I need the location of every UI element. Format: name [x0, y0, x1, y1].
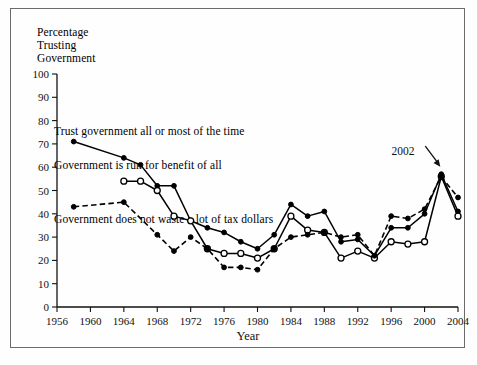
- annotation-group: 2002: [392, 145, 441, 167]
- data-point: [422, 211, 427, 216]
- data-point: [455, 213, 461, 219]
- data-point: [205, 225, 210, 230]
- data-point: [339, 235, 344, 240]
- series-line-2: [74, 177, 458, 270]
- x-tick-label-1972: 1972: [180, 315, 202, 327]
- x-tick-label-2000: 2000: [414, 315, 437, 327]
- data-point: [405, 241, 411, 247]
- y-tick-label-100: 100: [33, 68, 50, 80]
- data-point: [372, 253, 377, 258]
- data-point: [255, 267, 260, 272]
- data-point: [289, 202, 294, 207]
- data-point: [71, 204, 76, 209]
- data-point: [221, 250, 227, 256]
- data-point: [255, 255, 261, 261]
- plot-area: 0102030405060708090100 19561960196419681…: [0, 0, 477, 365]
- data-point: [305, 232, 310, 237]
- data-point: [121, 155, 126, 160]
- x-tick-label-1984: 1984: [280, 315, 303, 327]
- data-point: [121, 178, 127, 184]
- data-point: [389, 225, 394, 230]
- y-tick-label-80: 80: [38, 115, 50, 127]
- data-point: [355, 232, 360, 237]
- data-point: [338, 255, 344, 261]
- data-point: [272, 246, 277, 251]
- data-point: [355, 248, 361, 254]
- data-point: [172, 249, 177, 254]
- data-point: [71, 139, 76, 144]
- y-tick-label-30: 30: [38, 231, 50, 243]
- data-point: [222, 230, 227, 235]
- x-tick-label-1980: 1980: [247, 315, 270, 327]
- data-point: [171, 213, 177, 219]
- data-point: [305, 214, 310, 219]
- y-tick-label-10: 10: [38, 278, 50, 290]
- y-tick-label-60: 60: [38, 161, 50, 173]
- data-point: [422, 207, 427, 212]
- x-tick-label-2004: 2004: [447, 315, 470, 327]
- x-axis-title: Year: [236, 329, 260, 343]
- y-tick-label-50: 50: [38, 185, 50, 197]
- data-point: [456, 195, 461, 200]
- data-point: [121, 200, 126, 205]
- y-tick-label-40: 40: [38, 208, 50, 220]
- chart-figure: Percentage Trusting Government Trust gov…: [0, 0, 477, 365]
- y-tick-label-90: 90: [38, 91, 50, 103]
- y-tick-group: 0102030405060708090100: [33, 68, 58, 313]
- annotation-2002-label: 2002: [392, 145, 415, 157]
- data-point: [188, 218, 194, 224]
- data-point: [288, 213, 294, 219]
- data-point: [154, 188, 160, 194]
- data-point: [238, 239, 243, 244]
- data-point: [255, 246, 260, 251]
- series-group: [71, 139, 461, 272]
- data-point: [238, 250, 244, 256]
- data-point: [405, 225, 410, 230]
- x-tick-label-1964: 1964: [113, 315, 136, 327]
- data-point: [222, 265, 227, 270]
- annotation-arrowhead-icon: [434, 159, 441, 167]
- data-point: [138, 162, 143, 167]
- x-tick-label-1976: 1976: [213, 315, 236, 327]
- data-point: [322, 230, 327, 235]
- y-tick-label-0: 0: [44, 301, 50, 313]
- x-tick-label-1956: 1956: [46, 315, 69, 327]
- x-tick-label-1960: 1960: [79, 315, 102, 327]
- data-point: [138, 178, 144, 184]
- y-tick-label-20: 20: [38, 254, 50, 266]
- data-point: [439, 174, 444, 179]
- data-point: [388, 239, 394, 245]
- x-tick-label-1996: 1996: [380, 315, 403, 327]
- data-point: [289, 235, 294, 240]
- x-tick-group: 1956196019641968197219761980198419881992…: [46, 307, 470, 327]
- x-tick-label-1968: 1968: [146, 315, 169, 327]
- data-point: [155, 232, 160, 237]
- x-tick-label-1992: 1992: [347, 315, 369, 327]
- series-line-0: [74, 142, 458, 256]
- data-point: [172, 183, 177, 188]
- data-point: [238, 265, 243, 270]
- series-2: [71, 174, 460, 272]
- data-point: [422, 239, 428, 245]
- y-tick-label-70: 70: [38, 138, 50, 150]
- data-point: [405, 216, 410, 221]
- x-tick-label-1988: 1988: [313, 315, 336, 327]
- series-0: [71, 139, 460, 258]
- data-point: [389, 214, 394, 219]
- data-point: [339, 239, 344, 244]
- data-point: [322, 209, 327, 214]
- data-point: [272, 232, 277, 237]
- data-point: [205, 246, 210, 251]
- data-point: [188, 235, 193, 240]
